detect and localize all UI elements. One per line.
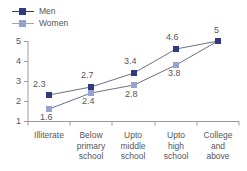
y-tick-label-1: 1	[9, 117, 21, 126]
value-label-women-0: 1.6	[40, 113, 53, 122]
data-point-men-4	[215, 38, 221, 44]
data-point-men-2	[131, 70, 137, 76]
value-label-men-2: 3.4	[124, 57, 137, 66]
value-label-women-1: 2.4	[82, 97, 95, 106]
line-chart: Men Women	[0, 0, 247, 171]
y-tick-label-5: 5	[9, 37, 21, 46]
data-point-women-2	[131, 82, 137, 88]
value-label-men-3: 4.6	[166, 33, 179, 42]
value-label-women-3: 3.8	[168, 69, 181, 78]
plot-area: 5 4 3 2 1 2.3 2.7 3.4 4.6 5 1.6 2.4 2.8 …	[0, 0, 247, 171]
y-tick-label-2: 2	[9, 97, 21, 106]
value-label-men-0: 2.3	[33, 80, 46, 89]
data-point-men-0	[46, 92, 52, 98]
x-category-label-4: College and above	[192, 130, 244, 162]
value-label-men-1: 2.7	[81, 71, 94, 80]
y-tick-label-4: 4	[9, 57, 21, 66]
data-point-men-3	[173, 46, 179, 52]
value-label-women-2: 2.8	[125, 90, 138, 99]
y-tick-label-3: 3	[9, 77, 21, 86]
value-label-men-4: 5	[214, 26, 219, 35]
